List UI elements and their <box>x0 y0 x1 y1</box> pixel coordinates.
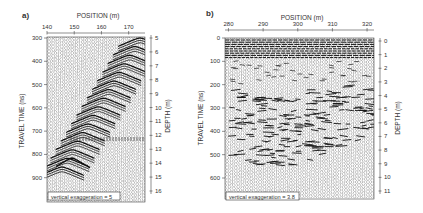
y-tick-label: 100 <box>210 58 221 64</box>
figure: a) POSITION (m) 140150160170 30040050060… <box>0 0 423 213</box>
panel-a-x-title: POSITION (m) <box>77 12 120 20</box>
y-tick-label: 0 <box>217 35 221 41</box>
y-tick-label: 200 <box>210 82 221 88</box>
depth-tick-label: 2 <box>384 65 388 71</box>
x-tick-label: 290 <box>258 21 269 27</box>
y-tick-label: 300 <box>210 105 221 111</box>
depth-tick-label: 6 <box>155 49 159 55</box>
panel-b-radargram <box>225 38 381 198</box>
y-tick-label: 800 <box>32 151 43 157</box>
depth-tick-label: 5 <box>384 106 388 112</box>
depth-tick-label: 10 <box>384 174 391 180</box>
x-tick-label: 320 <box>362 21 373 27</box>
panel-b: b) POSITION (m) 280290300310320 01002003… <box>197 9 402 200</box>
panel-b-y2-title: DEPTH (m) <box>394 101 402 135</box>
depth-tick-label: 7 <box>155 63 159 69</box>
panel-a: a) POSITION (m) 140150160170 30040050060… <box>18 11 172 202</box>
depth-tick-label: 13 <box>155 146 162 152</box>
x-tick-label: 140 <box>42 24 53 30</box>
x-tick-label: 300 <box>293 21 304 27</box>
panel-b-y-axis: 0100200300400500600 <box>210 35 225 181</box>
panel-a-annotation: vertical exaggeration = 5 <box>51 194 112 200</box>
depth-tick-label: 1 <box>384 52 388 58</box>
y-tick-label: 700 <box>32 128 43 134</box>
y-tick-label: 500 <box>32 82 43 88</box>
y-tick-label: 400 <box>210 128 221 134</box>
depth-tick-label: 11 <box>384 188 391 194</box>
panel-b-x-axis: 280290300310320 <box>223 21 374 32</box>
panel-b-y-title: TRAVEL TIME (ns) <box>197 91 205 146</box>
y-tick-label: 900 <box>32 175 43 181</box>
panel-b-label: b) <box>206 9 214 18</box>
depth-tick-label: 10 <box>155 105 162 111</box>
depth-tick-label: 7 <box>384 133 388 139</box>
depth-tick-label: 3 <box>384 79 388 85</box>
depth-tick-label: 6 <box>384 120 388 126</box>
depth-tick-label: 8 <box>384 147 388 153</box>
panel-b-annotation: vertical exaggeration = 3.8 <box>229 194 295 200</box>
depth-tick-label: 5 <box>155 35 159 41</box>
y-tick-label: 500 <box>210 152 221 158</box>
y-tick-label: 400 <box>32 58 43 64</box>
depth-tick-label: 0 <box>384 38 388 44</box>
panel-a-y-axis: 300400500600700800900 <box>32 35 47 181</box>
panel-a-depth-axis: 5678910111213141516 <box>150 35 163 194</box>
depth-tick-label: 16 <box>155 188 162 194</box>
depth-tick-label: 8 <box>155 77 159 83</box>
depth-tick-label: 9 <box>384 161 388 167</box>
y-tick-label: 600 <box>32 105 43 111</box>
panel-a-y2-title: DEPTH (m) <box>164 99 172 133</box>
depth-tick-label: 9 <box>155 91 159 97</box>
y-tick-label: 600 <box>210 175 221 181</box>
x-tick-label: 150 <box>69 24 80 30</box>
panel-a-x-axis: 140150160170 <box>42 24 145 35</box>
panel-a-label: a) <box>22 11 29 20</box>
x-tick-label: 310 <box>327 21 338 27</box>
x-tick-label: 170 <box>124 24 135 30</box>
depth-tick-label: 14 <box>155 160 162 166</box>
panel-a-radargram <box>40 37 162 202</box>
x-tick-label: 160 <box>96 24 107 30</box>
x-tick-label: 280 <box>223 21 234 27</box>
depth-tick-label: 11 <box>155 118 162 124</box>
panel-b-depth-axis: 01234567891011 <box>379 38 392 194</box>
depth-tick-label: 12 <box>155 132 162 138</box>
y-tick-label: 300 <box>32 35 43 41</box>
depth-tick-label: 15 <box>155 174 162 180</box>
depth-tick-label: 4 <box>384 93 388 99</box>
panel-a-y-title: TRAVEL TIME (ns) <box>18 94 26 149</box>
